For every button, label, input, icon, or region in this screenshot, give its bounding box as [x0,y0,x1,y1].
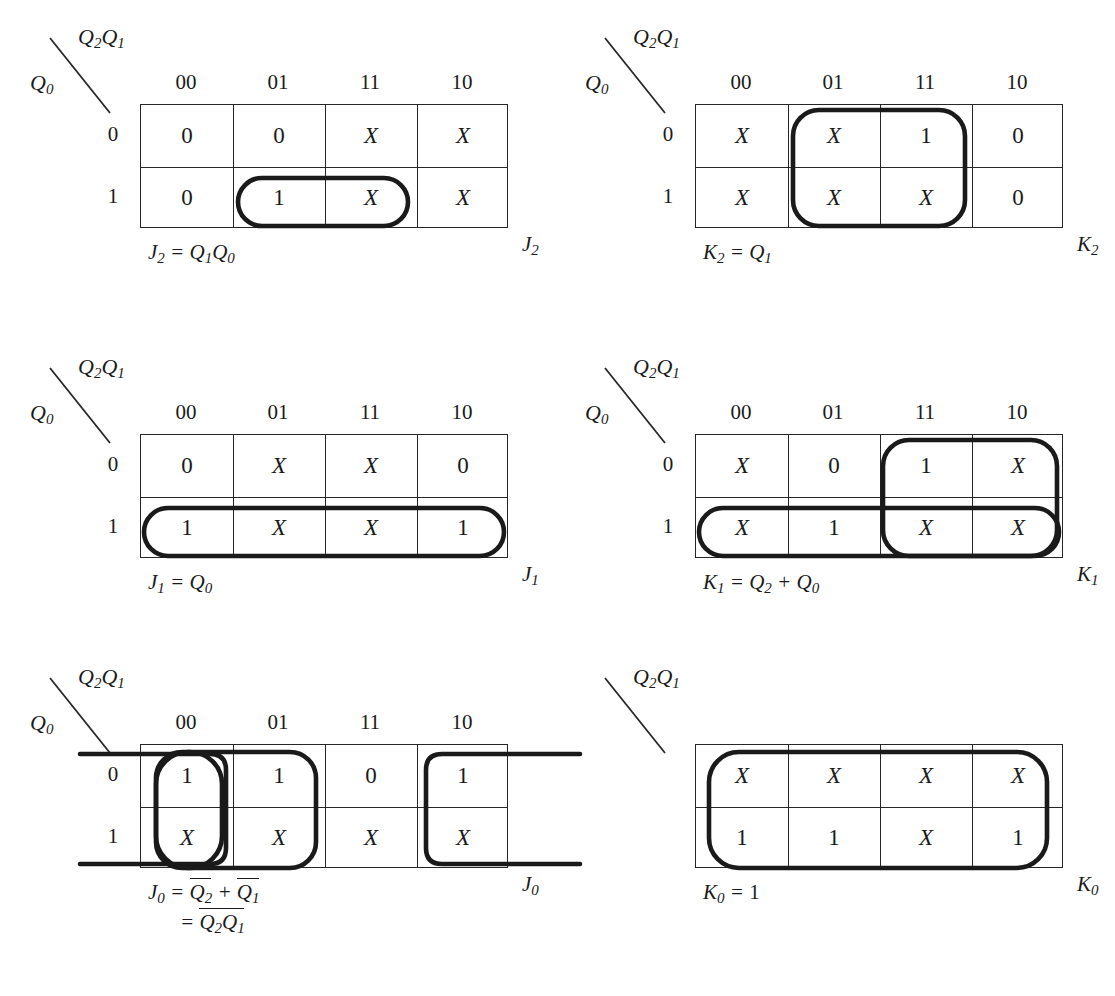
axis-left-label: Q0 [585,70,608,98]
col-header-11: 11 [324,70,416,95]
cell-r1c0: X [696,497,788,559]
col-header-10: 10 [971,400,1063,425]
axis-top-label: Q2Q1 [78,24,125,52]
row-label-0: 0 [102,452,124,477]
col-header-00: 00 [140,70,232,95]
cell-r0c2: X [325,435,417,497]
cell-r1c0: 1 [696,807,788,869]
cell-r0c1: 1 [233,745,325,807]
cell-r0c0: X [696,745,788,807]
cell-r1c1: X [233,807,325,869]
cell-r1c1: X [233,497,325,559]
cell-r0c3: 0 [972,105,1064,167]
col-header-10: 10 [971,70,1063,95]
kmap-output-label: J1 [522,562,539,589]
kmap-output-label: K2 [1077,232,1099,259]
cell-r1c1: X [788,167,880,229]
cell-r0c3: X [417,105,509,167]
row-label-1: 1 [657,514,679,539]
cell-r0c3: X [972,745,1064,807]
cell-r0c0: 1 [141,745,233,807]
cell-r0c2: 1 [880,435,972,497]
cell-r1c3: 1 [972,807,1064,869]
cell-r1c3: X [417,167,509,229]
col-header-00: 00 [695,70,787,95]
cell-r1c1: 1 [233,167,325,229]
cell-r0c0: 0 [141,105,233,167]
cell-r0c1: X [233,435,325,497]
cell-r0c3: X [972,435,1064,497]
cell-r0c1: 0 [233,105,325,167]
kmap-equation: J1 = Q0 [148,570,212,597]
axis-top-label: Q2Q1 [633,354,680,382]
cell-r1c0: X [696,167,788,229]
kmap-grid: X X X X 1 1 X 1 [695,744,1063,868]
col-header-10: 10 [416,70,508,95]
cell-r1c3: 0 [972,167,1064,229]
cell-r1c3: X [972,497,1064,559]
axis-left-label: Q0 [30,710,53,738]
row-label-0: 0 [657,452,679,477]
kmap-output-label: K0 [1077,872,1099,899]
kmap-output-label: J2 [522,232,539,259]
col-header-00: 00 [140,710,232,735]
cell-r0c0: 0 [141,435,233,497]
cell-r1c2: X [880,167,972,229]
col-header-01: 01 [232,400,324,425]
cell-r0c3: 0 [417,435,509,497]
cell-r0c2: X [325,105,417,167]
cell-r1c3: 1 [417,497,509,559]
cell-r0c1: 0 [788,435,880,497]
col-header-11: 11 [879,400,971,425]
cell-r1c2: X [325,807,417,869]
row-label-0: 0 [657,122,679,147]
kmap-equation: J2 = Q1Q0 [148,240,235,267]
cell-r0c2: 0 [325,745,417,807]
axis-top-label: Q2Q1 [78,354,125,382]
col-header-01: 01 [787,400,879,425]
cell-r1c2: X [325,167,417,229]
row-label-1: 1 [102,514,124,539]
kmap-equation-line1: J0 = Q2 + Q1 [148,880,260,907]
col-header-00: 00 [695,400,787,425]
cell-r1c0: 1 [141,497,233,559]
cell-r0c0: X [696,105,788,167]
col-header-01: 01 [787,70,879,95]
kmap-output-label: K1 [1077,562,1099,589]
col-header-10: 10 [416,710,508,735]
cell-r0c2: 1 [880,105,972,167]
axis-top-label: Q2Q1 [78,664,125,692]
cell-r1c0: X [141,807,233,869]
col-header-01: 01 [232,70,324,95]
kmap-grid: X 0 1 X X 1 X X [695,434,1063,558]
col-header-11: 11 [879,70,971,95]
cell-r1c2: X [325,497,417,559]
row-label-1: 1 [102,824,124,849]
cell-r0c2: X [880,745,972,807]
axis-left-label: Q0 [30,400,53,428]
kmap-equation-line2: = Q2Q1 [180,910,245,937]
kmap-grid: 1 1 0 1 X X X X [140,744,508,868]
axis-left-label: Q0 [30,70,53,98]
kmap-equation: K0 = 1 [703,880,760,907]
kmap-equation: K1 = Q2 + Q0 [703,570,819,597]
kmap-output-label: J0 [522,872,539,899]
row-label-1: 1 [102,184,124,209]
cell-r0c1: X [788,105,880,167]
axis-top-label: Q2Q1 [633,664,680,692]
cell-r0c1: X [788,745,880,807]
col-header-01: 01 [232,710,324,735]
cell-r1c0: 0 [141,167,233,229]
cell-r1c2: X [880,497,972,559]
col-header-11: 11 [324,710,416,735]
cell-r0c3: 1 [417,745,509,807]
axis-left-label: Q0 [585,400,608,428]
kmap-grid: 0 0 X X 0 1 X X [140,104,508,228]
cell-r0c0: X [696,435,788,497]
cell-r1c2: X [880,807,972,869]
row-label-1: 1 [657,184,679,209]
cell-r1c1: 1 [788,497,880,559]
kmap-equation: K2 = Q1 [703,240,772,267]
kmap-grid: X X 1 0 X X X 0 [695,104,1063,228]
axis-top-label: Q2Q1 [633,24,680,52]
